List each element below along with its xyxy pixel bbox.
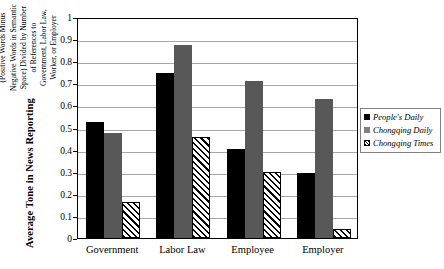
bar-group	[78, 19, 148, 238]
y-tick-label: 0.2	[48, 190, 72, 200]
legend-item-chongqing-times: Chongqing Times	[364, 138, 437, 148]
legend-swatch-icon	[364, 114, 370, 120]
bar	[156, 73, 174, 238]
y-tick-label: 0.9	[48, 35, 72, 45]
legend-label: Chongqing Daily	[373, 125, 432, 135]
legend-label: Chongqing Times	[373, 138, 433, 148]
plot-area	[77, 18, 358, 239]
y-tick-label: 0.7	[48, 79, 72, 89]
y-tick-label: 0.5	[48, 124, 72, 134]
y-axis-title-main: Average Tone in News Reporting	[24, 93, 35, 248]
bar	[104, 133, 122, 238]
legend-item-chongqing-daily: Chongqing Daily	[364, 125, 437, 135]
bar	[174, 45, 192, 238]
legend-swatch-icon	[364, 140, 370, 146]
bar	[333, 229, 351, 238]
x-tick-label: Labor Law	[147, 244, 217, 255]
legend: People's Daily Chongqing Daily Chongqing…	[360, 108, 441, 153]
bar	[245, 81, 263, 238]
y-tick-label: 0.4	[48, 146, 72, 156]
y-tick-label: 1	[48, 13, 72, 23]
bar	[315, 99, 333, 238]
x-tick-label: Employee	[218, 244, 288, 255]
bar-group	[148, 19, 218, 238]
bar-chart-figure: Average Tone in News Reporting (Positive…	[0, 0, 444, 269]
bar	[192, 137, 210, 238]
y-tick-label: 0.8	[48, 57, 72, 67]
y-tick-mark	[73, 239, 77, 240]
legend-swatch-icon	[364, 127, 370, 133]
bar	[122, 202, 140, 238]
x-tick-label: Employer	[288, 244, 358, 255]
bar	[263, 172, 281, 238]
y-tick-label: 0	[48, 234, 72, 244]
bars-layer	[78, 19, 357, 238]
legend-label: People's Daily	[373, 112, 423, 122]
bar	[297, 173, 315, 238]
bar	[86, 122, 104, 238]
bar-group	[219, 19, 289, 238]
y-tick-label: 0.6	[48, 101, 72, 111]
x-tick-label: Government	[77, 244, 147, 255]
bar-group	[289, 19, 359, 238]
bar	[227, 149, 245, 239]
y-tick-label: 0.3	[48, 168, 72, 178]
legend-item-peoples-daily: People's Daily	[364, 112, 437, 122]
y-tick-label: 0.1	[48, 212, 72, 222]
